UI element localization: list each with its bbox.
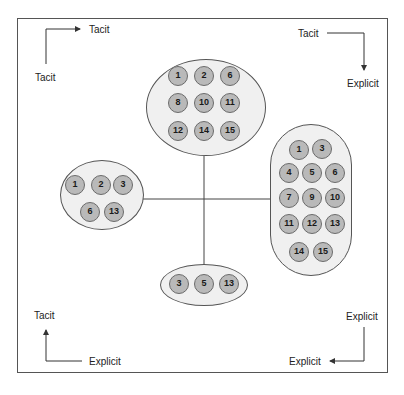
node: 3 bbox=[312, 139, 332, 159]
node: 13 bbox=[325, 214, 345, 234]
node: 3 bbox=[113, 175, 133, 195]
arrow-bottom-left bbox=[46, 330, 82, 361]
node: 12 bbox=[302, 214, 322, 234]
bottom-left-start-label: Explicit bbox=[89, 356, 121, 368]
node: 11 bbox=[220, 93, 240, 113]
node: 7 bbox=[279, 188, 299, 208]
bottom-left-end-label: Tacit bbox=[34, 310, 55, 322]
node: 12 bbox=[168, 121, 188, 141]
arrow-top-right bbox=[327, 33, 364, 70]
node: 14 bbox=[289, 242, 309, 262]
node: 10 bbox=[325, 188, 345, 208]
node: 8 bbox=[168, 93, 188, 113]
node: 15 bbox=[313, 242, 333, 262]
node: 5 bbox=[302, 163, 322, 183]
bottom-right-end-label: Explicit bbox=[289, 356, 321, 368]
node: 1 bbox=[168, 66, 188, 86]
top-right-start-label: Tacit bbox=[298, 28, 319, 40]
top-left-end-label: Tacit bbox=[89, 24, 110, 36]
node: 6 bbox=[80, 202, 100, 222]
top-right-end-label: Explicit bbox=[347, 78, 379, 90]
top-left-start-label: Tacit bbox=[35, 72, 56, 84]
node: 3 bbox=[169, 274, 189, 294]
knowledge-conversion-diagram: Tacit Tacit Tacit Explicit Tacit Explici… bbox=[0, 0, 404, 395]
arrow-bottom-right bbox=[330, 327, 364, 361]
node: 4 bbox=[279, 163, 299, 183]
node: 2 bbox=[194, 66, 214, 86]
node: 6 bbox=[220, 66, 240, 86]
arrow-top-left bbox=[46, 29, 80, 64]
node: 9 bbox=[302, 188, 322, 208]
node: 10 bbox=[194, 93, 214, 113]
bottom-right-start-label: Explicit bbox=[346, 311, 378, 323]
node: 1 bbox=[289, 140, 309, 160]
node: 6 bbox=[325, 163, 345, 183]
node: 13 bbox=[104, 202, 124, 222]
node: 1 bbox=[65, 175, 85, 195]
node: 2 bbox=[91, 175, 111, 195]
node: 15 bbox=[220, 121, 240, 141]
node: 11 bbox=[279, 214, 299, 234]
node: 13 bbox=[219, 274, 239, 294]
node: 5 bbox=[194, 274, 214, 294]
cluster-left bbox=[60, 160, 144, 230]
node: 14 bbox=[194, 121, 214, 141]
